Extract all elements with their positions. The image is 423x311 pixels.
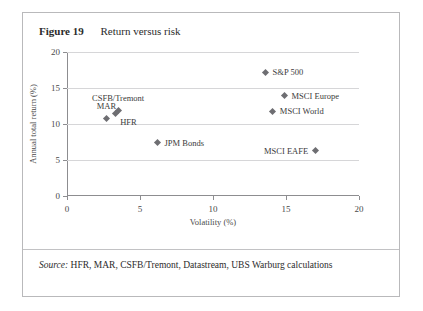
- diamond-marker: [281, 92, 288, 99]
- data-point-label: MSCI World: [280, 106, 324, 116]
- gridline: [67, 52, 359, 53]
- figure-title: Return versus risk: [100, 25, 180, 37]
- gridline: [67, 88, 359, 89]
- figure-header: Figure 19 Return versus risk: [39, 25, 181, 37]
- figure-frame: Figure 19 Return versus risk 05101520 05…: [22, 12, 400, 297]
- x-tick-label: 0: [65, 204, 70, 214]
- diamond-marker: [262, 69, 269, 76]
- x-tick-label: 10: [209, 204, 218, 214]
- source-text: HFR, MAR, CSFB/Tremont, Datastream, UBS …: [68, 260, 332, 270]
- source-divider: [23, 249, 399, 250]
- gridline: [67, 160, 359, 161]
- data-point-label: MSCI Europe: [292, 91, 339, 101]
- scatter-plot: 05101520 05101520 MARCSFB/TremontHFRJPM …: [67, 52, 359, 196]
- y-tick-label: 10: [51, 119, 60, 129]
- x-tick-label: 5: [138, 204, 143, 214]
- x-tick: [67, 196, 68, 200]
- source-note: Source: HFR, MAR, CSFB/Tremont, Datastre…: [39, 260, 332, 270]
- diamond-marker: [312, 147, 319, 154]
- y-tick-label: 20: [51, 47, 60, 57]
- data-point-label: HFR: [120, 117, 137, 127]
- diamond-marker: [112, 110, 119, 117]
- y-tick: [63, 124, 67, 125]
- data-point-label: S&P 500: [273, 67, 304, 77]
- source-prefix: Source:: [39, 260, 68, 270]
- x-axis-label: Volatility (%): [190, 217, 236, 227]
- x-tick-label: 15: [282, 204, 291, 214]
- diamond-marker: [103, 115, 110, 122]
- x-tick-label: 20: [355, 204, 364, 214]
- y-tick: [63, 52, 67, 53]
- x-tick: [140, 196, 141, 200]
- y-tick-label: 0: [56, 191, 61, 201]
- diamond-marker: [154, 139, 161, 146]
- y-tick-label: 15: [51, 83, 60, 93]
- x-tick: [213, 196, 214, 200]
- gridline: [67, 124, 359, 125]
- data-point-label: JPM Bonds: [165, 138, 204, 148]
- y-tick: [63, 160, 67, 161]
- x-tick: [286, 196, 287, 200]
- y-tick: [63, 88, 67, 89]
- y-axis-label: Annual total return (%): [28, 84, 38, 164]
- diamond-marker: [269, 107, 276, 114]
- data-point-label: MSCI EAFE: [264, 146, 308, 156]
- y-tick-label: 5: [56, 155, 61, 165]
- x-tick: [359, 196, 360, 200]
- data-point-label: CSFB/Tremont: [92, 93, 144, 103]
- figure-number: Figure 19: [39, 25, 84, 37]
